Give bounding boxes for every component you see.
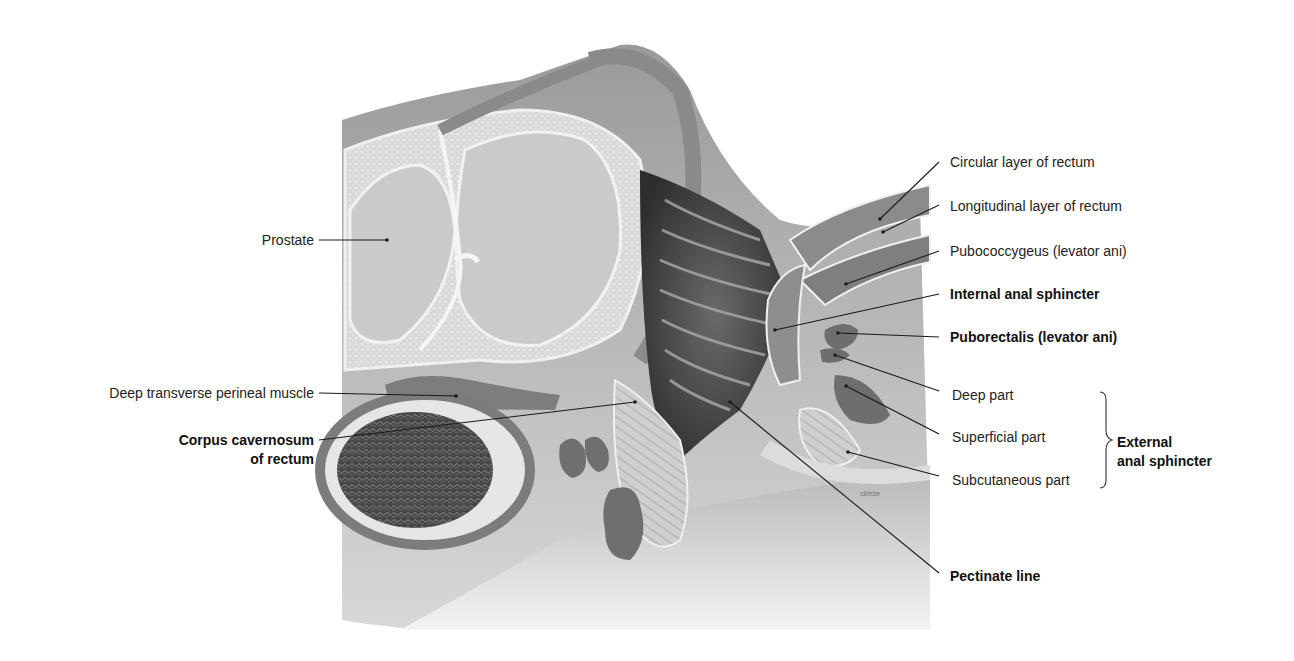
label-subcutaneous-part: Subcutaneous part [952, 472, 1070, 489]
label-corpus-cavernosum: Corpus cavernosum [179, 432, 314, 449]
label-puborectalis: Puborectalis (levator ani) [950, 329, 1117, 346]
label-internal-sphincter: Internal anal sphincter [950, 286, 1099, 303]
brace-external-sphincter [1100, 392, 1112, 488]
artist-signature: sklebe [860, 490, 880, 497]
label-pectinate-line: Pectinate line [950, 568, 1040, 585]
label-deep-transverse-perineal: Deep transverse perineal muscle [109, 385, 314, 402]
label-circular-layer: Circular layer of rectum [950, 154, 1095, 171]
label-corpus-cavernosum-line2: of rectum [250, 451, 314, 468]
label-longitudinal-layer: Longitudinal layer of rectum [950, 198, 1122, 215]
ext-sphincter-left-3 [603, 487, 643, 560]
label-external-sphincter: External [1117, 434, 1172, 451]
label-superficial-part: Superficial part [952, 429, 1045, 446]
label-deep-part: Deep part [952, 387, 1013, 404]
label-prostate: Prostate [262, 232, 314, 249]
label-external-sphincter-line2: anal sphincter [1117, 453, 1212, 470]
label-pubococcygeus: Pubococcygeus (levator ani) [950, 243, 1127, 260]
bulb-spongiosum [337, 412, 493, 528]
